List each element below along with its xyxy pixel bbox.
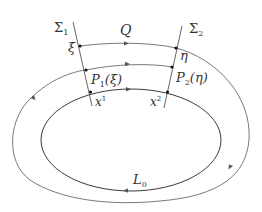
q-arrow-icon (124, 41, 129, 45)
label-Q: Q (120, 22, 132, 38)
outer-arrow-right-icon (229, 164, 234, 169)
diagram-svg: Σ1 Σ2 Q ξ η P1(ξ) P2(η) x1 x2 L0 (0, 0, 262, 212)
l0-arrow-icon (123, 188, 128, 192)
orbit-segment-P1-P2 (86, 65, 172, 70)
point-xi (78, 44, 81, 47)
orbit-L0 (41, 89, 221, 191)
section-sigma1 (73, 22, 92, 106)
poincare-map-diagram: Σ1 Σ2 Q ξ η P1(ξ) P2(η) x1 x2 L0 (0, 0, 262, 212)
label-x2: x2 (150, 95, 161, 109)
label-sigma1: Σ1 (54, 20, 68, 37)
point-x1 (89, 90, 92, 93)
label-P1: P1(ξ) (90, 72, 122, 89)
point-P2 (170, 65, 173, 68)
point-P1 (84, 68, 87, 71)
orbit-segment-Q (80, 43, 176, 48)
label-P2: P2(η) (175, 70, 208, 87)
label-x1: x1 (95, 95, 106, 109)
label-sigma2: Σ2 (189, 21, 203, 38)
label-eta: η (180, 48, 188, 63)
label-L0: L0 (132, 172, 147, 189)
point-x2 (166, 90, 169, 93)
outer-orbit (13, 48, 250, 203)
l0-top-arrow-icon (126, 87, 131, 91)
label-xi: ξ (68, 40, 76, 55)
point-eta (174, 46, 177, 49)
p-arrow-icon (125, 62, 130, 66)
